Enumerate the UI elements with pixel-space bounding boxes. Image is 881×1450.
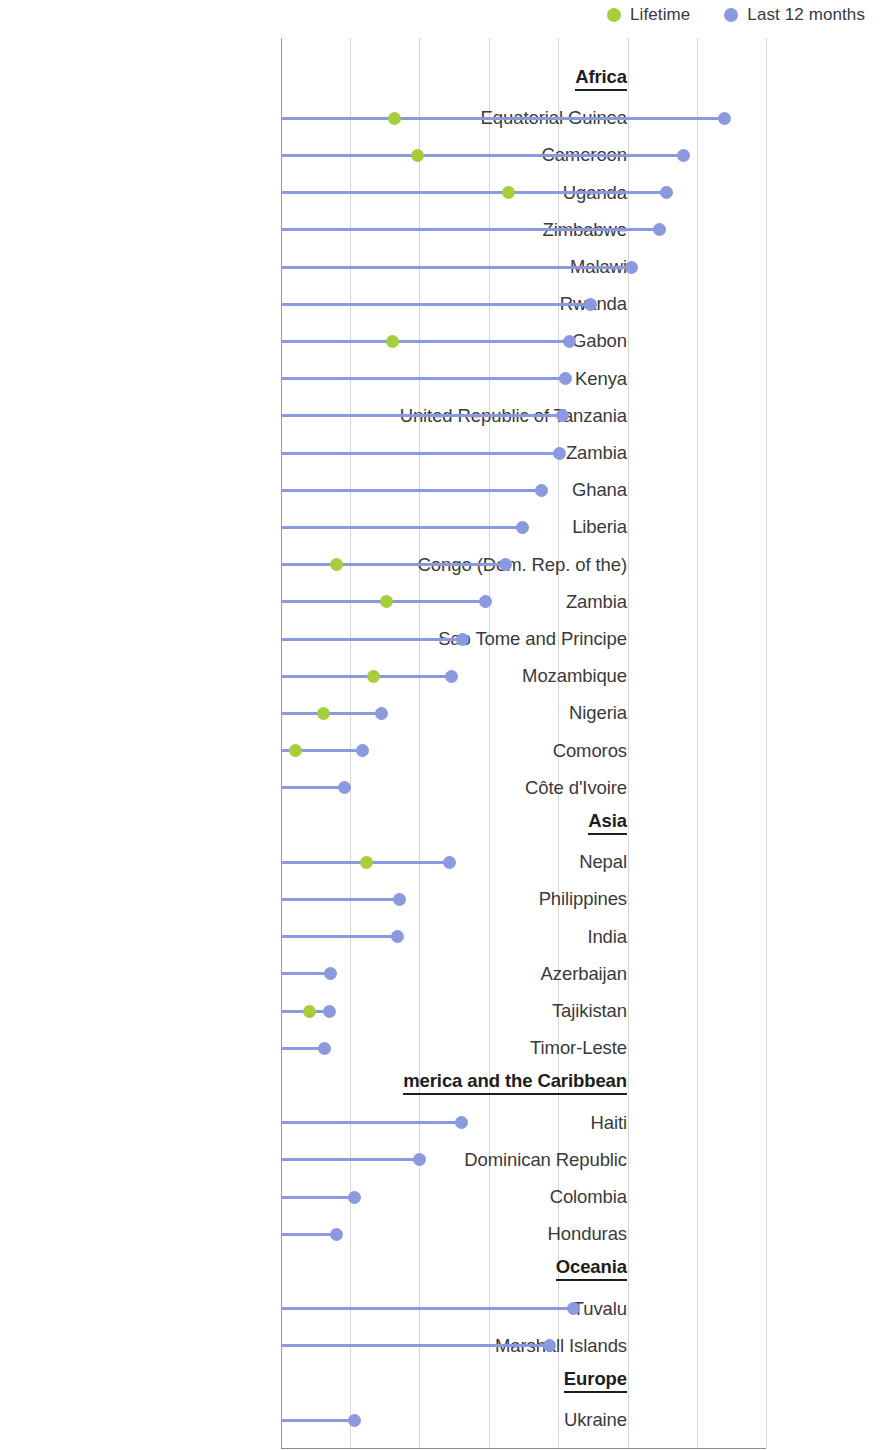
row-label: Zambia: [566, 444, 627, 463]
data-point-lifetime[interactable]: [502, 186, 515, 199]
gridline-15: [489, 38, 490, 1448]
data-point-last-12-months[interactable]: [338, 781, 351, 794]
gridline-25: [628, 38, 629, 1448]
stem-last-12-months: [281, 340, 570, 343]
data-point-last-12-months[interactable]: [445, 670, 458, 683]
data-point-last-12-months[interactable]: [330, 1228, 343, 1241]
stem-last-12-months: [281, 1344, 550, 1347]
group-heading-asia: Asia: [588, 812, 627, 835]
stem-last-12-months: [281, 1233, 337, 1236]
row-label: Côte d'Ivoire: [525, 779, 627, 798]
data-point-last-12-months[interactable]: [348, 1191, 361, 1204]
data-point-last-12-months[interactable]: [356, 744, 369, 757]
data-point-last-12-months[interactable]: [413, 1153, 426, 1166]
y-axis-line: [281, 38, 282, 1448]
stem-last-12-months: [281, 526, 523, 529]
stem-last-12-months: [281, 712, 382, 715]
data-point-lifetime[interactable]: [411, 149, 424, 162]
stem-last-12-months: [281, 1158, 420, 1161]
stem-last-12-months: [281, 935, 398, 938]
stem-last-12-months: [281, 452, 560, 455]
data-point-last-12-months[interactable]: [625, 261, 638, 274]
stem-last-12-months: [281, 377, 566, 380]
stem-last-12-months: [281, 563, 506, 566]
data-point-last-12-months[interactable]: [348, 1414, 361, 1427]
data-point-last-12-months[interactable]: [479, 595, 492, 608]
data-point-lifetime[interactable]: [317, 707, 330, 720]
stem-last-12-months: [281, 972, 331, 975]
data-point-last-12-months[interactable]: [563, 335, 576, 348]
row-label: Tuvalu: [573, 1300, 627, 1319]
data-point-last-12-months[interactable]: [323, 1005, 336, 1018]
gridline-5: [350, 38, 351, 1448]
row-label: Kenya: [575, 370, 627, 389]
row-label: Haiti: [590, 1114, 627, 1133]
row-label: Honduras: [548, 1225, 627, 1244]
data-point-lifetime[interactable]: [380, 595, 393, 608]
stem-last-12-months: [281, 1419, 355, 1422]
row-label: Mozambique: [522, 667, 627, 686]
gridline-35: [766, 38, 767, 1448]
row-label: Nigeria: [569, 704, 627, 723]
data-point-last-12-months[interactable]: [318, 1042, 331, 1055]
stem-last-12-months: [281, 489, 542, 492]
stem-last-12-months: [281, 1121, 462, 1124]
x-axis-line: [281, 1448, 767, 1449]
data-point-lifetime[interactable]: [360, 856, 373, 869]
data-point-last-12-months[interactable]: [324, 967, 337, 980]
stem-last-12-months: [281, 266, 632, 269]
stem-last-12-months: [281, 117, 725, 120]
data-point-last-12-months[interactable]: [375, 707, 388, 720]
gridline-10: [419, 38, 420, 1448]
data-point-last-12-months[interactable]: [499, 558, 512, 571]
row-label: Ghana: [572, 481, 627, 500]
data-point-last-12-months[interactable]: [718, 112, 731, 125]
data-point-lifetime[interactable]: [388, 112, 401, 125]
data-point-lifetime[interactable]: [289, 744, 302, 757]
row-label: Timor-Leste: [530, 1039, 627, 1058]
data-point-last-12-months[interactable]: [653, 223, 666, 236]
stem-last-12-months: [281, 1307, 574, 1310]
data-point-last-12-months[interactable]: [553, 447, 566, 460]
data-point-last-12-months[interactable]: [443, 856, 456, 869]
data-point-lifetime[interactable]: [386, 335, 399, 348]
group-heading-latin-america-and-the-caribbean: merica and the Caribbean: [403, 1072, 627, 1095]
chart-root: LifetimeLast 12 months 05101520253035Afr…: [0, 0, 881, 1450]
row-label: India: [587, 928, 627, 947]
data-point-last-12-months[interactable]: [584, 298, 597, 311]
row-label: Comoros: [553, 742, 627, 761]
stem-last-12-months: [281, 303, 591, 306]
data-point-lifetime[interactable]: [330, 558, 343, 571]
group-heading-oceania: Oceania: [556, 1258, 627, 1281]
group-heading-europe: Europe: [564, 1370, 627, 1393]
stem-last-12-months: [281, 898, 400, 901]
data-point-last-12-months[interactable]: [559, 372, 572, 385]
data-point-lifetime[interactable]: [303, 1005, 316, 1018]
row-label: Gabon: [572, 332, 627, 351]
stem-last-12-months: [281, 1196, 355, 1199]
stem-last-12-months: [281, 786, 345, 789]
row-label: Tajikistan: [552, 1002, 627, 1021]
stem-last-12-months: [281, 191, 667, 194]
data-point-last-12-months[interactable]: [455, 1116, 468, 1129]
gridline-30: [697, 38, 698, 1448]
row-label: Azerbaijan: [541, 965, 627, 984]
data-point-last-12-months[interactable]: [391, 930, 404, 943]
group-heading-africa: Africa: [575, 68, 627, 91]
data-point-lifetime[interactable]: [367, 670, 380, 683]
row-label: Ukraine: [564, 1411, 627, 1430]
data-point-last-12-months[interactable]: [393, 893, 406, 906]
data-point-last-12-months[interactable]: [456, 633, 469, 646]
data-point-last-12-months[interactable]: [567, 1302, 580, 1315]
data-point-last-12-months[interactable]: [516, 521, 529, 534]
data-point-last-12-months[interactable]: [535, 484, 548, 497]
stem-last-12-months: [281, 154, 684, 157]
stem-last-12-months: [281, 675, 452, 678]
row-label: Philippines: [539, 890, 627, 909]
data-point-last-12-months[interactable]: [660, 186, 673, 199]
stem-last-12-months: [281, 638, 463, 641]
row-label: Nepal: [579, 853, 627, 872]
data-point-last-12-months[interactable]: [677, 149, 690, 162]
stem-last-12-months: [281, 414, 563, 417]
plot-area: 05101520253035AfricaEquatorial GuineaCam…: [0, 0, 881, 1450]
